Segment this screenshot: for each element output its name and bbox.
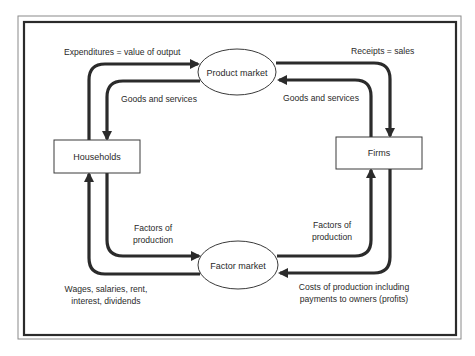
goods-from-firms-label: Goods and services xyxy=(283,93,359,103)
wages-label-line1: Wages, salaries, rent, xyxy=(65,284,148,294)
factor-market-node: Factor market xyxy=(198,241,278,289)
factors-to-firms-arrow xyxy=(277,170,371,256)
factors-from-households-label-line2: production xyxy=(133,235,173,245)
firms-node: Firms xyxy=(336,137,422,169)
factors-to-firms-label-line2: production xyxy=(312,232,352,242)
factors-from-households-label-line1: Factors of xyxy=(134,223,173,233)
costs-label-line1: Costs of production including xyxy=(299,282,410,292)
goods-to-households-arrow xyxy=(107,81,200,139)
households-node: Households xyxy=(54,140,140,173)
factors-to-firms-label-line1: Factors of xyxy=(313,220,352,230)
expenditures-label: Expenditures = value of output xyxy=(64,47,181,57)
firms-label: Firms xyxy=(368,148,391,158)
circular-flow-diagram: Product market Factor market Households … xyxy=(0,0,475,356)
product-market-label: Product market xyxy=(206,68,268,78)
product-market-node: Product market xyxy=(198,49,276,95)
households-label: Households xyxy=(73,152,121,162)
receipts-label: Receipts = sales xyxy=(351,46,414,56)
costs-label-line2: payments to owners (profits) xyxy=(300,294,409,304)
goods-from-firms-arrow xyxy=(279,80,371,137)
goods-to-households-label: Goods and services xyxy=(121,94,197,104)
wages-label-line2: interest, dividends xyxy=(71,296,140,306)
factor-market-label: Factor market xyxy=(210,261,266,271)
